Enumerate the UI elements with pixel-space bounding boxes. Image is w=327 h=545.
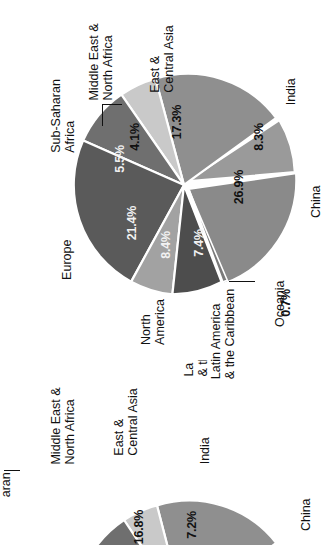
category-label-north-america-line2: America [153,299,167,345]
category-label-bottom-east-central-asia: East & Central Asia [112,388,140,455]
category-label-bottom-east-central-asia-line1: East & [112,388,126,455]
value-label-europe: 21.4% [125,206,139,240]
leader-line-middle-east [102,104,103,126]
category-label-bottom-middle-east-line1: Middle East & [49,387,63,464]
category-label-middle-east: Middle East & North Africa [87,23,115,100]
category-label-latin-america-overflow: La & the [182,360,210,377]
category-label-europe: Europe [61,240,75,280]
leader-line-middle-east-elbow [102,104,122,105]
category-label-east-central-asia-line1: East & [148,25,162,92]
category-label-middle-east-line1: Middle East & [87,23,101,100]
figure-canvas: 26.9% 8.3% 17.3% 4.1% 5.5% 21.4% 8.4% 7.… [0,0,327,545]
category-label-bottom-middle-east-line2: North Africa [63,387,77,464]
category-label-bottom-east-central-asia-line2: Central Asia [126,388,140,455]
category-label-sub-saharan-line1: Sub-Saharan [49,79,63,153]
category-label-latin-america-overflow-line2: & the [196,360,210,377]
value-label-india: 8.3% [252,123,266,151]
pie-chart-bottom: La & the 16.8% 7.2% East & Central Asia … [0,360,327,545]
category-label-sub-saharan-line2: Africa [63,79,77,153]
category-label-east-central-asia: East & Central Asia [148,25,176,92]
value-label-bottom-east-central-asia: 16.8% [132,510,146,544]
pie-top-slices [74,74,297,295]
category-label-north-america-line1: North [139,299,153,345]
category-label-india: India [285,78,299,105]
value-label-middle-east: 4.1% [128,123,142,151]
category-label-latin-america-overflow-line1: La [182,360,196,377]
value-label-china: 26.9% [232,170,246,204]
category-label-bottom-sub-saharan-clipped: aran [0,472,13,497]
category-label-oceania: Oceania [274,280,288,327]
value-label-sub-saharan: 5.5% [113,145,127,173]
category-label-china: China [310,185,324,218]
slice-bottom-east-central-asia [157,501,276,545]
category-label-east-central-asia-line2: Central Asia [162,25,176,92]
pie-chart-top: 26.9% 8.3% 17.3% 4.1% 5.5% 21.4% 8.4% 7.… [0,0,327,360]
category-label-sub-saharan: Sub-Saharan Africa [49,79,77,153]
category-label-bottom-middle-east: Middle East & North Africa [49,387,77,464]
category-label-bottom-india: India [199,437,213,464]
category-label-middle-east-line2: North Africa [101,23,115,100]
value-label-north-america: 8.4% [159,231,173,259]
value-label-bottom-india: 7.2% [185,511,199,539]
leader-line-bottom-middle-east [4,470,20,471]
value-label-latin-america: 7.4% [192,229,206,257]
leader-line-oceania [229,281,255,282]
category-label-bottom-china: China [300,498,314,531]
value-label-east-central-asia: 17.3% [170,105,184,139]
category-label-north-america: North America [139,299,167,345]
